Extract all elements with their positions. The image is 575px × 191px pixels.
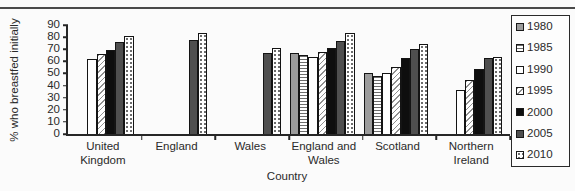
legend-item-1990: 1990 xyxy=(516,64,565,76)
y-tick-label: 20 xyxy=(30,104,60,116)
legend-label: 1990 xyxy=(527,64,553,76)
bar-slot xyxy=(401,25,410,134)
bar-2005 xyxy=(189,40,198,134)
bar-2000 xyxy=(401,58,410,134)
bar-2005 xyxy=(484,58,493,134)
bar-slot xyxy=(465,25,474,134)
bar-2010 xyxy=(345,33,354,134)
legend-item-2010: 2010 xyxy=(516,149,565,161)
bar-1995 xyxy=(318,52,327,134)
bar-group xyxy=(142,25,216,134)
bar-slot xyxy=(364,25,373,134)
bar-slot xyxy=(327,25,336,134)
bar-1995 xyxy=(465,80,474,135)
category-label: England and Wales xyxy=(287,139,361,168)
y-tick-label: 70 xyxy=(30,43,60,55)
y-tick-label: 50 xyxy=(30,68,60,80)
bar-slot xyxy=(437,25,446,134)
category-label: Northern Ireland xyxy=(434,139,508,168)
bar-2000 xyxy=(106,50,115,134)
bar-slot xyxy=(78,25,87,134)
legend-label: 1995 xyxy=(527,85,553,97)
bar-group xyxy=(215,25,289,134)
legend-item-1995: 1995 xyxy=(516,85,565,97)
bar-2010 xyxy=(419,44,428,134)
bar-slot xyxy=(69,25,78,134)
y-tick-label: 10 xyxy=(30,116,60,128)
bar-slot xyxy=(419,25,428,134)
y-tick-label: 80 xyxy=(30,31,60,43)
legend-marker-plain-white xyxy=(516,66,524,74)
category-label: United Kingdom xyxy=(66,139,140,168)
x-axis-title: Country xyxy=(66,170,508,182)
legend: 1980198519901995200020052010 xyxy=(511,15,570,167)
bar-slot xyxy=(106,25,115,134)
bar-slot xyxy=(143,25,152,134)
legend-label: 1985 xyxy=(527,42,553,54)
bar-slot xyxy=(474,25,483,134)
y-tick-label: 30 xyxy=(30,92,60,104)
bar-slot xyxy=(235,25,244,134)
bar-group xyxy=(68,25,142,134)
bar-slot xyxy=(345,25,354,134)
bar-2005 xyxy=(410,49,419,134)
legend-label: 2000 xyxy=(527,107,553,119)
bar-slot xyxy=(115,25,124,134)
legend-item-1985: 1985 xyxy=(516,42,565,54)
legend-label: 1980 xyxy=(527,21,553,33)
legend-item-2000: 2000 xyxy=(516,107,565,119)
bar-slot xyxy=(87,25,96,134)
bar-slot xyxy=(180,25,189,134)
bar-2010 xyxy=(272,48,281,134)
bar-2000 xyxy=(474,69,483,134)
category-label: Scotland xyxy=(361,139,435,168)
bar-1980 xyxy=(290,53,299,134)
bar-slot xyxy=(97,25,106,134)
bar-1980 xyxy=(364,73,373,134)
legend-marker-dots xyxy=(516,151,524,159)
bar-slot xyxy=(152,25,161,134)
bar-slot xyxy=(290,25,299,134)
bar-1985 xyxy=(299,55,308,134)
bar-slot xyxy=(263,25,272,134)
bar-slot xyxy=(410,25,419,134)
bar-1995 xyxy=(391,67,400,134)
bar-2005 xyxy=(336,41,345,134)
bar-group xyxy=(363,25,437,134)
bar-slot xyxy=(170,25,179,134)
y-tick-label: 60 xyxy=(30,56,60,68)
legend-label: 2005 xyxy=(527,128,553,140)
bar-2010 xyxy=(493,57,502,135)
bar-slot xyxy=(447,25,456,134)
bar-slot xyxy=(308,25,317,134)
category-label: England xyxy=(140,139,214,168)
category-label: Wales xyxy=(213,139,287,168)
bar-group xyxy=(289,25,363,134)
legend-label: 2010 xyxy=(527,149,553,161)
y-tick-label: 90 xyxy=(30,19,60,31)
plot-area: 0102030405060708090 xyxy=(66,25,510,136)
bar-slot xyxy=(244,25,253,134)
legend-marker-solid-black xyxy=(516,108,524,116)
bar-slot xyxy=(124,25,133,134)
bar-slot xyxy=(456,25,465,134)
y-axis-title: % who breastfed initially xyxy=(8,18,20,141)
y-tick-label: 40 xyxy=(30,80,60,92)
bar-1990 xyxy=(382,73,391,134)
bar-slot xyxy=(484,25,493,134)
bar-slot xyxy=(382,25,391,134)
breastfeeding-bar-chart-figure: % who breastfed initially 01020304050607… xyxy=(0,0,575,191)
bar-slot xyxy=(336,25,345,134)
bar-slot xyxy=(391,25,400,134)
bar-1990 xyxy=(308,57,317,135)
bar-slot xyxy=(253,25,262,134)
bar-groups xyxy=(68,25,510,134)
bar-slot xyxy=(299,25,308,134)
top-rule-divider xyxy=(0,7,575,9)
bar-slot xyxy=(226,25,235,134)
bar-slot xyxy=(373,25,382,134)
bar-2005 xyxy=(263,53,272,134)
bar-1985 xyxy=(373,76,382,134)
bar-group xyxy=(436,25,510,134)
bar-slot xyxy=(493,25,502,134)
